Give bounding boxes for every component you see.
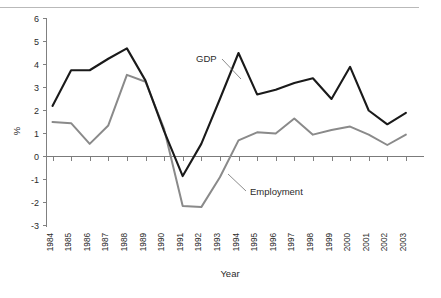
x-tick-label: 2000 xyxy=(343,233,352,252)
x-tick-label: 1989 xyxy=(139,233,148,252)
x-tick-label: 1984 xyxy=(46,233,55,252)
x-tick-label: 1985 xyxy=(64,233,73,252)
chart-figure: 6 5 4 3 2 1 0 -1 -2 -3 % 198419851986198… xyxy=(0,0,441,298)
y-tick-label: 3 xyxy=(34,83,39,93)
x-tick-label: 1993 xyxy=(213,233,222,252)
x-tick-label: 2002 xyxy=(380,233,389,252)
y-tick-label: -2 xyxy=(31,198,39,208)
x-tick-label: 1999 xyxy=(325,233,334,252)
employment-series-line xyxy=(53,75,406,207)
gdp-annotation-label: GDP xyxy=(196,53,217,64)
employment-leader-line xyxy=(228,174,246,191)
employment-annotation-label: Employment xyxy=(250,186,303,197)
y-axis-ticks xyxy=(43,19,47,226)
gdp-leader-line xyxy=(222,59,241,79)
y-tick-label: 1 xyxy=(34,129,39,139)
x-tick-label: 1995 xyxy=(250,233,259,252)
x-tick-label: 1996 xyxy=(269,233,278,252)
x-tick-label: 1998 xyxy=(306,233,315,252)
x-tick-label: 1986 xyxy=(83,233,92,252)
x-tick-label: 2003 xyxy=(399,233,408,252)
y-tick-label: 4 xyxy=(34,60,39,70)
x-tick-label: 1990 xyxy=(157,233,166,252)
x-tick-labels: 1984198519861987198819891990199119921993… xyxy=(46,233,408,252)
y-tick-label: 5 xyxy=(34,37,39,47)
x-tick-label: 1987 xyxy=(101,233,110,252)
y-tick-label: 6 xyxy=(34,14,39,24)
line-chart-plot: 6 5 4 3 2 1 0 -1 -2 -3 % 198419851986198… xyxy=(0,0,441,298)
x-tick-label: 1992 xyxy=(194,233,203,252)
x-tick-label: 2001 xyxy=(362,233,371,252)
x-axis-title: Year xyxy=(220,268,239,279)
x-tick-label: 1997 xyxy=(287,233,296,252)
employment-annotation: Employment xyxy=(228,174,303,197)
x-tick-label: 1991 xyxy=(176,233,185,252)
y-tick-label: -1 xyxy=(31,175,39,185)
y-tick-labels: 6 5 4 3 2 1 0 -1 -2 -3 xyxy=(31,14,39,231)
y-axis-title: % xyxy=(11,126,22,135)
y-tick-label: 0 xyxy=(34,152,39,162)
x-tick-label: 1988 xyxy=(120,233,129,252)
y-tick-label: 2 xyxy=(34,106,39,116)
x-tick-label: 1994 xyxy=(232,233,241,252)
y-tick-label: -3 xyxy=(31,221,39,231)
